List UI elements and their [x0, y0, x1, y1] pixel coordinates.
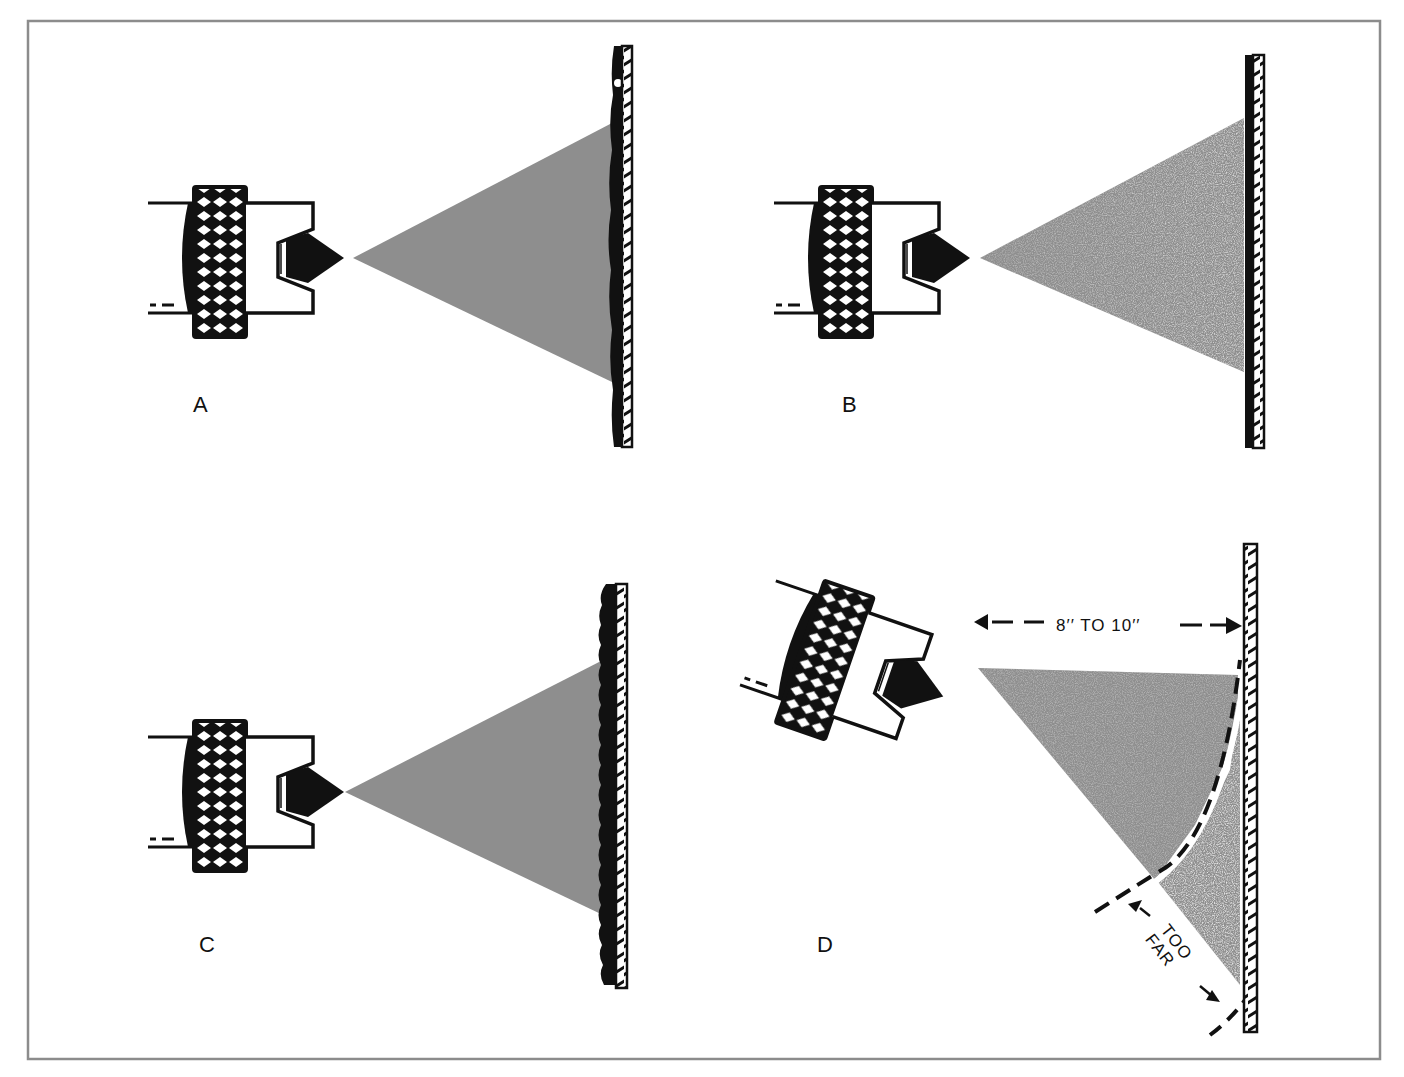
wall — [1244, 544, 1257, 1032]
panel-d: 8′′ TO 10′′ TOO FAR D — [732, 544, 1257, 1035]
wall — [599, 584, 628, 988]
panel-a: A — [148, 46, 632, 447]
spray-gun-icon — [774, 187, 970, 337]
distance-label: 8′′ TO 10′′ — [1056, 616, 1141, 635]
panel-label-d: D — [817, 932, 833, 957]
panel-label-b: B — [842, 392, 857, 417]
spray-cone — [980, 118, 1244, 372]
spray-gun-distance-diagram: A B C — [0, 0, 1404, 1077]
spray-cone — [353, 123, 612, 382]
wall — [609, 46, 633, 447]
panel-label-c: C — [199, 932, 215, 957]
spray-gun-icon — [148, 721, 344, 871]
distance-dimension: 8′′ TO 10′′ — [974, 614, 1242, 635]
spray-gun-icon — [732, 566, 966, 772]
panel-c: C — [148, 584, 627, 988]
wall — [1245, 55, 1264, 448]
too-far-arc — [1210, 1000, 1245, 1035]
spray-cone — [345, 660, 603, 915]
spray-gun-icon — [148, 187, 344, 337]
panel-b: B — [774, 55, 1264, 448]
panel-label-a: A — [193, 392, 208, 417]
spray-cone — [978, 668, 1242, 985]
